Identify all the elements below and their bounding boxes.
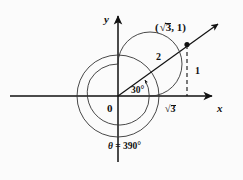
theta-value: 390° <box>123 141 141 151</box>
point-coordinate-label: (√3, 1) <box>155 22 186 33</box>
angle-label: 30° <box>131 86 144 96</box>
radius-length-label: 2 <box>156 52 161 62</box>
sqrt-symbol-point: √3 <box>159 22 172 33</box>
figure-canvas <box>0 0 243 180</box>
rotation-angle-label: θ = 390° <box>108 142 141 152</box>
sqrt-symbol-adjacent: √3 <box>164 104 176 114</box>
radical-bar <box>165 23 171 24</box>
opposite-side-label: 1 <box>195 66 200 76</box>
x-axis-label: x <box>217 103 223 114</box>
terminal-point-dot <box>184 42 189 47</box>
radical-bar <box>171 105 176 106</box>
math-figure: y x 0 30° 2 1 √3 (√3, 1) θ = 390° <box>0 0 243 180</box>
y-axis-label: y <box>104 14 109 25</box>
theta-equals: = <box>113 141 123 151</box>
paren-close: ) <box>182 21 186 33</box>
adjacent-side-label: √3 <box>164 104 176 114</box>
origin-label: 0 <box>107 103 113 114</box>
